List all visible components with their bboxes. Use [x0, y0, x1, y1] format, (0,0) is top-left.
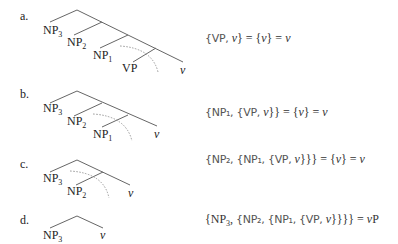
equation-b: {NP₁, {VP, v}} = {v} = v	[205, 105, 328, 120]
node-np3: NP3	[43, 171, 62, 187]
equation-c: {NP₂, {NP₁, {VP, v}}} = {v} = v	[205, 152, 365, 167]
row-marker-c: c.	[20, 157, 28, 172]
node-np2: NP2	[67, 184, 86, 200]
equation-d: {NP3, {NP₂, {NP₁, {VP, v}}}} = vP	[205, 212, 379, 228]
node-v: v	[154, 127, 159, 142]
node-v: v	[100, 228, 105, 243]
node-np2: NP2	[67, 114, 86, 130]
node-np3: NP3	[43, 101, 62, 117]
node-np2: NP2	[67, 35, 86, 51]
node-v: v	[128, 186, 133, 201]
node-np3: NP3	[43, 228, 62, 244]
node-np3: NP3	[43, 23, 62, 39]
node-v: v	[180, 63, 185, 78]
node-np1: NP1	[93, 127, 112, 143]
row-marker-b: b.	[20, 87, 29, 102]
equation-a: {VP, v} = {v} = v	[205, 31, 290, 46]
node-vp: VP	[122, 61, 137, 76]
tree-d	[50, 216, 103, 228]
node-np1: NP1	[93, 48, 112, 64]
row-marker-a: a.	[20, 9, 28, 24]
row-marker-d: d.	[20, 213, 29, 228]
